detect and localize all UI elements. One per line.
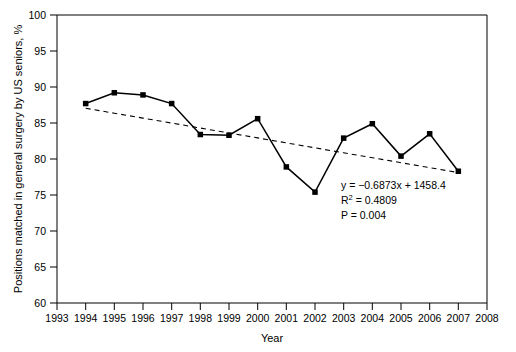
data-point-marker <box>255 116 261 122</box>
chart-figure: 100 95 90 85 80 75 70 65 60 <box>0 0 516 352</box>
data-point-marker <box>370 121 376 127</box>
data-point-marker <box>312 189 318 195</box>
data-point-marker <box>198 132 204 138</box>
x-tick-label: 2008 <box>475 312 499 324</box>
data-point-marker <box>341 135 347 141</box>
x-tick-label: 1997 <box>160 312 184 324</box>
data-point-marker <box>284 164 290 170</box>
data-point-marker <box>112 90 118 96</box>
figure-background <box>0 0 516 352</box>
x-tick-label: 1999 <box>217 312 241 324</box>
x-tick-label: 2007 <box>447 312 471 324</box>
x-tick-label: 1996 <box>131 312 155 324</box>
y-axis-title: Positions matched in general surgery by … <box>12 25 24 294</box>
x-tick-label: 1993 <box>45 312 69 324</box>
x-tick-label: 2003 <box>332 312 356 324</box>
x-axis-title: Year <box>261 332 284 344</box>
y-tick-label: 65 <box>34 261 46 273</box>
data-point-marker <box>140 92 146 98</box>
x-tick-label: 1994 <box>74 312 98 324</box>
p-value-text: P = 0.004 <box>341 209 386 221</box>
y-tick-label: 75 <box>34 189 46 201</box>
x-tick-label: 2004 <box>361 312 385 324</box>
x-tick-label: 2000 <box>246 312 270 324</box>
regression-equation-text: y = −0.6873x + 1458.4 <box>341 179 446 191</box>
data-point-marker <box>226 132 232 138</box>
x-tick-label: 1998 <box>189 312 213 324</box>
y-tick-label: 85 <box>34 117 46 129</box>
x-tick-label: 2005 <box>389 312 413 324</box>
y-tick-label: 60 <box>34 297 46 309</box>
data-point-marker <box>169 101 175 107</box>
data-point-marker <box>456 168 462 174</box>
y-tick-label: 90 <box>34 81 46 93</box>
x-tick-label: 2002 <box>303 312 327 324</box>
line-chart-canvas: 100 95 90 85 80 75 70 65 60 <box>0 0 516 352</box>
x-tick-label: 1995 <box>103 312 127 324</box>
x-tick-label: 2006 <box>418 312 442 324</box>
x-tick-label: 2001 <box>275 312 299 324</box>
data-point-marker <box>83 101 89 107</box>
y-tick-label: 95 <box>34 45 46 57</box>
data-point-marker <box>427 131 433 137</box>
y-tick-label: 80 <box>34 153 46 165</box>
y-tick-label: 100 <box>28 9 46 21</box>
y-tick-label: 70 <box>34 225 46 237</box>
data-point-marker <box>398 153 404 159</box>
